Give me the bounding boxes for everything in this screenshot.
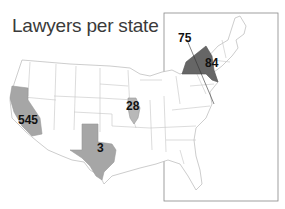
label-illinois: 28 [126, 99, 140, 113]
us-map: 545 3 28 84 75 [0, 0, 285, 209]
label-california: 545 [18, 113, 38, 127]
label-texas: 3 [97, 141, 104, 155]
label-new-york: 84 [205, 56, 219, 70]
label-dc: 75 [178, 31, 192, 45]
